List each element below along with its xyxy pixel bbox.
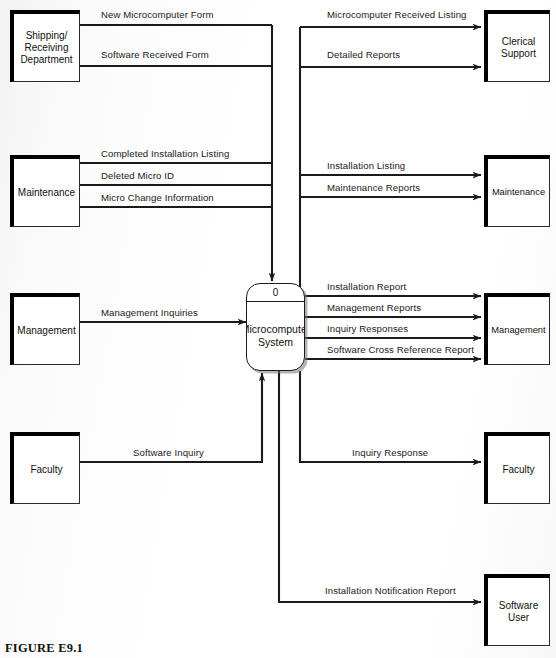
entity-clerical-support[interactable]: Clerical Support xyxy=(484,10,550,82)
entity-faculty-right[interactable]: Faculty xyxy=(484,432,550,504)
flow-label-management-inquiries: Management Inquiries xyxy=(101,307,198,318)
entity-label: Faculty xyxy=(499,464,537,476)
entity-management-left[interactable]: Management xyxy=(10,293,80,365)
entity-software-user[interactable]: Software User xyxy=(484,574,550,646)
flow-label-management-reports: Management Reports xyxy=(327,302,421,313)
flow-label-new-microcomputer-form: New Microcomputer Form xyxy=(101,9,214,20)
figure-caption: FIGURE E9.1 xyxy=(5,641,83,656)
entity-label: Maintenance xyxy=(15,187,78,199)
entity-label: Management xyxy=(488,325,548,336)
figure-page: Shipping/ Receiving Department Maintenan… xyxy=(0,0,556,658)
flow-label-software-inquiry: Software Inquiry xyxy=(133,447,204,458)
flow-label-installation-listing: Installation Listing xyxy=(327,160,405,171)
process-number: 0 xyxy=(247,284,304,302)
entity-label: Faculty xyxy=(27,464,65,476)
flow-label-microcomputer-received-listing: Microcomputer Received Listing xyxy=(327,9,467,20)
entity-label: Management xyxy=(14,325,78,337)
flow-label-installation-report: Installation Report xyxy=(327,281,406,292)
flow-label-micro-change-information: Micro Change Information xyxy=(101,192,214,203)
flow-label-installation-notification-report: Installation Notification Report xyxy=(325,585,456,596)
flow-path-installation-notification-report xyxy=(279,371,481,602)
entity-label: Software User xyxy=(496,600,541,624)
flow-label-deleted-micro-id: Deleted Micro ID xyxy=(101,170,174,181)
entity-management-right[interactable]: Management xyxy=(484,293,550,365)
flow-label-software-received-form: Software Received Form xyxy=(101,49,209,60)
flow-label-software-cross-reference-report: Software Cross Reference Report xyxy=(327,344,474,355)
entity-maintenance-right[interactable]: Maintenance xyxy=(484,155,550,227)
process-microcomputer-system[interactable]: 0 Microcomputer System xyxy=(246,283,305,371)
entity-label: Clerical Support xyxy=(498,36,539,60)
entity-maintenance-left[interactable]: Maintenance xyxy=(10,155,80,227)
flow-label-maintenance-reports: Maintenance Reports xyxy=(327,182,420,193)
flow-label-detailed-reports: Detailed Reports xyxy=(327,49,400,60)
entity-label: Maintenance xyxy=(489,187,548,198)
entity-label: Shipping/ Receiving Department xyxy=(17,30,75,66)
entity-shipping-receiving-department[interactable]: Shipping/ Receiving Department xyxy=(10,10,80,82)
flow-label-inquiry-response: Inquiry Response xyxy=(352,447,428,458)
entity-faculty-left[interactable]: Faculty xyxy=(10,432,80,504)
flow-label-completed-installation-listing: Completed Installation Listing xyxy=(101,148,229,159)
flow-label-inquiry-responses: Inquiry Responses xyxy=(327,323,408,334)
process-name: Microcomputer System xyxy=(247,302,304,370)
